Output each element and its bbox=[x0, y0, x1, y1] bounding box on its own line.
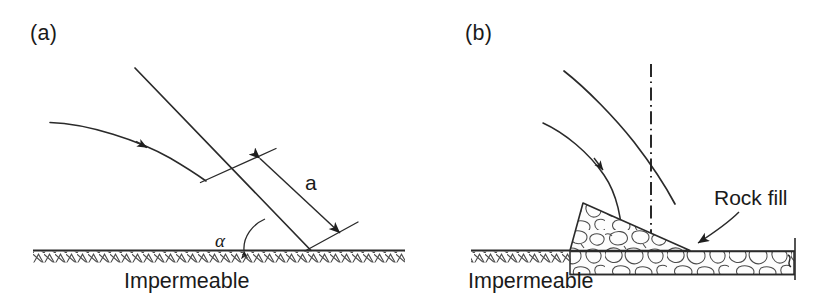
panel-b-label: (b) bbox=[465, 21, 492, 45]
dimension-double-arrow-icon bbox=[260, 159, 340, 234]
angle-alpha-label: α bbox=[215, 230, 226, 251]
dimension-extension-line-top bbox=[201, 149, 277, 183]
impermeable-label-a: Impermeable bbox=[124, 269, 249, 293]
downstream-slope-line-icon bbox=[135, 68, 311, 251]
figure-root: (a) α a Impermeable bbox=[0, 0, 838, 304]
phreatic-surface-curve-icon bbox=[50, 123, 206, 182]
downstream-slope-line-icon bbox=[564, 71, 675, 204]
impermeable-hatching-icon bbox=[33, 252, 405, 263]
rock-fill-label: Rock fill bbox=[714, 186, 788, 209]
impermeable-hatching-icon bbox=[471, 252, 571, 263]
dimension-a-label: a bbox=[305, 171, 317, 194]
angle-arc-arrow-icon bbox=[244, 219, 265, 251]
dimension-extension-line-bottom bbox=[305, 222, 358, 251]
impermeable-label-b: Impermeable bbox=[468, 269, 593, 293]
rock-fill-prism bbox=[570, 203, 690, 251]
flow-direction-tick-icon bbox=[136, 142, 147, 148]
panel-a-drawing: (a) α a Impermeable bbox=[0, 0, 419, 304]
rock-fill-leader-arrow-icon bbox=[698, 212, 739, 243]
panel-a: (a) α a Impermeable bbox=[0, 0, 419, 304]
panel-b: (b) Rock fill Impe bbox=[419, 0, 838, 304]
panel-b-drawing: (b) Rock fill Impe bbox=[419, 0, 838, 304]
rock-fill-blanket bbox=[570, 252, 794, 275]
panel-a-label: (a) bbox=[30, 21, 57, 45]
